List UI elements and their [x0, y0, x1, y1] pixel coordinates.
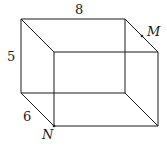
width-label: 6 — [23, 110, 31, 123]
point-m-label: M — [147, 25, 160, 38]
prism-diagram: 8 5 6 M N — [0, 0, 167, 147]
point-n-dot — [53, 125, 56, 128]
height-label: 5 — [7, 50, 15, 63]
edge-top-left — [21, 19, 54, 52]
point-n-label: N — [42, 128, 53, 141]
length-label: 8 — [75, 3, 83, 16]
edge-bottom-right — [125, 93, 158, 126]
back-face — [21, 19, 125, 93]
prism-drawing — [0, 0, 167, 147]
front-face — [54, 52, 158, 126]
point-m-dot — [141, 35, 144, 38]
